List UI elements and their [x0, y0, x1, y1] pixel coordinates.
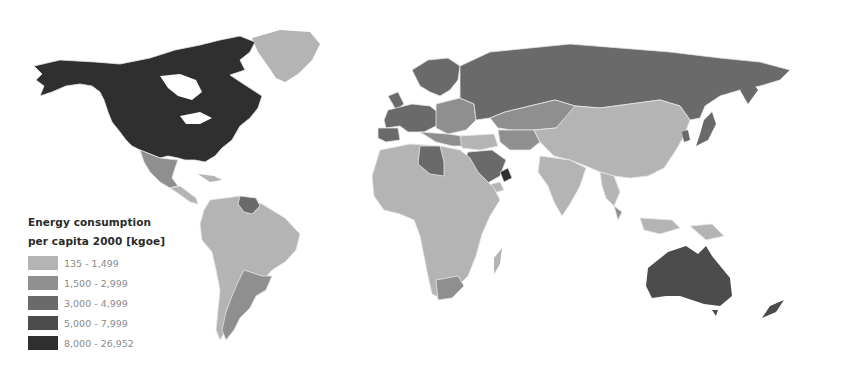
legend-title-line2: per capita 2000 [kgoe]	[28, 232, 165, 251]
australia	[646, 246, 732, 306]
legend-item: 5,000 - 7,999	[28, 315, 165, 331]
legend-label: 1,500 - 2,999	[64, 278, 128, 289]
legend-item: 135 - 1,499	[28, 255, 165, 271]
legend-swatch	[28, 296, 58, 310]
legend-swatch	[28, 316, 58, 330]
legend-title-line1: Energy consumption	[28, 213, 165, 232]
south-america	[200, 196, 300, 340]
greenland	[252, 30, 320, 82]
asia-light	[534, 100, 724, 240]
tasmania	[712, 310, 718, 316]
legend-item: 3,000 - 4,999	[28, 295, 165, 311]
north-america-dark	[34, 36, 262, 162]
legend-swatch	[28, 256, 58, 270]
korea	[682, 130, 690, 142]
legend-label: 5,000 - 7,999	[64, 318, 128, 329]
new-zealand	[762, 300, 784, 318]
legend-item: 1,500 - 2,999	[28, 275, 165, 291]
map-legend: Energy consumption per capita 2000 [kgoe…	[28, 213, 165, 351]
legend-item: 8,000 - 26,952	[28, 335, 165, 351]
legend-swatch	[28, 276, 58, 290]
caribbean	[198, 174, 222, 182]
central-america	[170, 186, 198, 204]
legend-label: 3,000 - 4,999	[64, 298, 128, 309]
legend-swatch	[28, 336, 58, 350]
legend-label: 8,000 - 26,952	[64, 338, 134, 349]
legend-label: 135 - 1,499	[64, 258, 119, 269]
